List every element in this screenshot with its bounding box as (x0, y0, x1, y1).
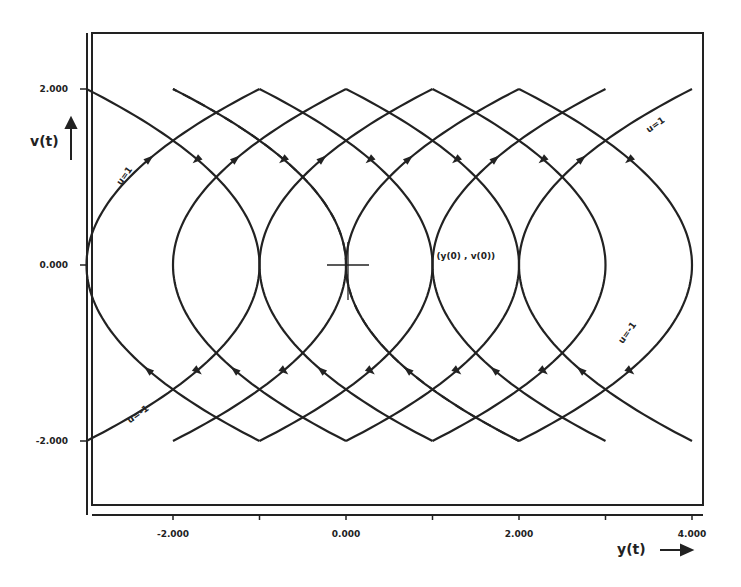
annotation-label: u=-1 (616, 320, 638, 345)
y-tick-label: 2.000 (40, 84, 68, 94)
y-tick-label: -2.000 (36, 436, 68, 446)
x-tick-label: -2.000 (157, 529, 189, 539)
annotation-label: u=1 (644, 115, 666, 135)
tick-labels: -2.0000.0002.0004.0002.0000.000-2.000 (36, 84, 706, 539)
origin-cross-icon (327, 242, 369, 300)
axis-ticks (80, 89, 692, 520)
annotation-label: (y(0) , v(0)) (437, 251, 496, 261)
x-tick-label: 4.000 (678, 529, 706, 539)
y-axis-arrow-icon (66, 118, 76, 160)
y-axis-label: v(t) (30, 133, 59, 149)
y-tick-label: 0.000 (40, 260, 68, 270)
phase-plane-chart: -2.0000.0002.0004.0002.0000.000-2.000 u=… (0, 0, 741, 587)
plot-frame (87, 33, 703, 515)
annotation-label: u=-1 (125, 403, 150, 425)
trajectory-curves (87, 89, 693, 441)
direction-arrows (143, 154, 635, 376)
x-tick-label: 2.000 (505, 529, 533, 539)
x-axis-arrow-icon (660, 545, 692, 555)
x-axis-label: y(t) (617, 541, 646, 557)
x-tick-label: 0.000 (332, 529, 360, 539)
